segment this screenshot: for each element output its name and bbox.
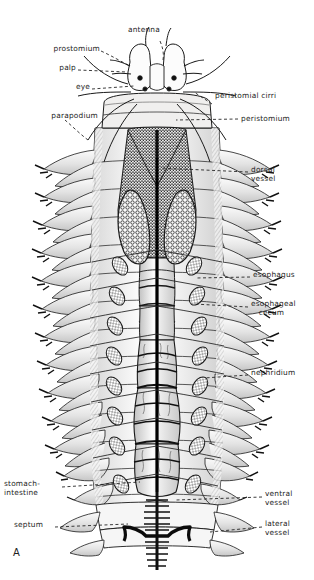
eye-posterior-right [167,87,171,91]
label-dorsal-vessel: dorsal vessel [251,166,275,183]
label-nephridium: nephridium [251,369,295,378]
label-prostomium: prostomium [16,45,100,54]
label-esophagus: esophagus [253,271,295,280]
label-esophageal-cecum: esophageal cecum [251,300,296,317]
eye-anterior-right [172,76,177,81]
leader-eye [92,86,134,89]
label-stomach-intestine: stomach- intestine [4,480,62,497]
leader-parapodium [65,120,88,140]
label-parapodium: parapodium [6,112,98,121]
eye-posterior-left [143,87,147,91]
label-septum: septum [14,521,56,530]
leader-palp [78,70,127,72]
label-ventral-vessel: ventral vessel [265,490,293,507]
label-peristomial-cirri: peristomial cirri [215,92,276,101]
leader-antenna [160,41,163,60]
label-antenna: antenna [128,26,160,35]
prostomium [128,44,186,91]
label-peristomium: peristomium [241,115,290,124]
label-eye: eye [40,83,90,92]
figure-letter: A [13,547,20,558]
label-lateral-vessel: lateral vessel [265,520,290,537]
eye-anterior-left [138,76,143,81]
label-palp: palp [32,64,76,73]
